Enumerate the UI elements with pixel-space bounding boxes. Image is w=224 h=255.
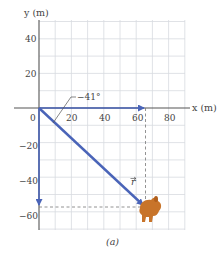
- x-tick-20: 20: [66, 113, 78, 123]
- x-axis-label: x (m): [192, 102, 217, 113]
- grid: [39, 20, 185, 230]
- position-vector-r: [39, 108, 143, 205]
- y-tick-neg40: −40: [19, 176, 38, 186]
- x-tick-40: 40: [99, 113, 111, 123]
- y-tick-20: 20: [25, 69, 37, 79]
- y-axis-label: y (m): [23, 7, 49, 18]
- x-tick-60: 60: [132, 113, 144, 123]
- figure-caption: (a): [106, 236, 119, 247]
- x-tick-80: 80: [164, 113, 176, 123]
- displacement-diagram: y (m) x (m) 0 20 40 60 80 40 20 −20 −40 …: [0, 0, 224, 255]
- angle-label: −41°: [77, 92, 101, 102]
- y-tick-neg20: −20: [19, 141, 38, 151]
- y-tick-neg60: −60: [19, 211, 38, 221]
- rabbit-icon: [139, 196, 161, 222]
- x-tick-0: 0: [30, 113, 36, 123]
- y-tick-40: 40: [25, 34, 37, 44]
